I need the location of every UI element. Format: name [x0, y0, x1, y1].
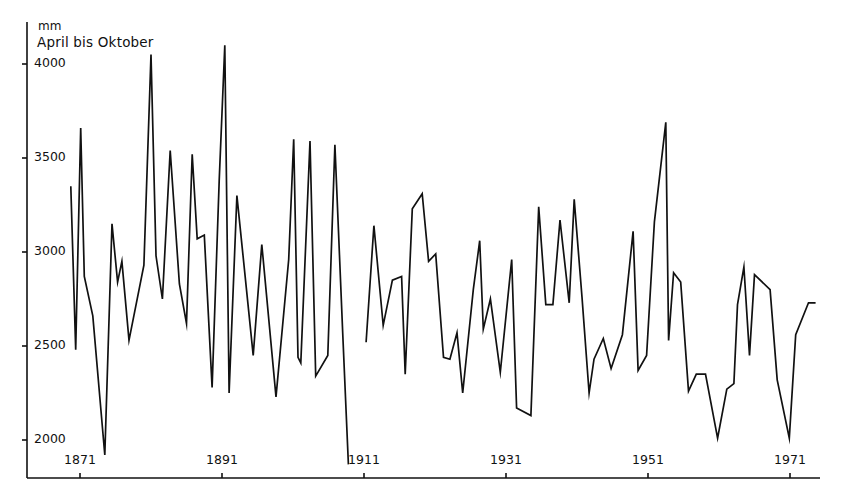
x-tick-label: 1931	[490, 452, 522, 467]
x-tick-label: 1891	[206, 452, 238, 467]
y-tick-label: 3000	[34, 243, 66, 258]
precipitation-line	[366, 122, 815, 438]
x-tick-label: 1971	[774, 452, 806, 467]
x-tick-label: 1871	[64, 452, 96, 467]
y-axis-unit-label: mm	[38, 19, 61, 33]
chart-subtitle: April bis Oktober	[37, 34, 154, 50]
x-tick-label: 1951	[632, 452, 664, 467]
y-tick-label: 3500	[34, 149, 66, 164]
precipitation-line-chart	[0, 0, 849, 496]
axes	[22, 22, 820, 478]
precipitation-line	[71, 45, 349, 464]
y-tick-label: 2500	[34, 337, 66, 352]
data-series	[71, 45, 816, 464]
y-tick-label: 2000	[34, 431, 66, 446]
x-tick-label: 1911	[348, 452, 380, 467]
y-tick-label: 4000	[34, 55, 66, 70]
